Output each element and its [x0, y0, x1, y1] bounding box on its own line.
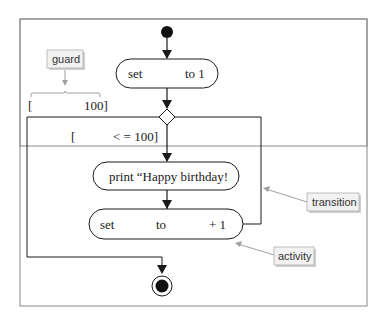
guard-loop-close: < = 100] — [113, 129, 158, 144]
guard-loop-open: [ — [71, 129, 75, 144]
activity-callout-line — [238, 244, 274, 255]
arrowhead-icon — [162, 153, 172, 162]
activity-init-to: to 1 — [185, 66, 205, 81]
arrowhead-icon — [263, 186, 270, 192]
activity-callout-label: activity — [278, 250, 312, 262]
arrowhead-icon — [162, 100, 172, 109]
guard-brace — [31, 91, 100, 97]
arrowhead-icon — [157, 265, 167, 274]
decision-node — [159, 109, 175, 125]
final-node — [156, 280, 169, 293]
guard-callout-label: guard — [52, 53, 80, 65]
activity-init-set: set — [128, 66, 143, 81]
activity-increment-plus: + 1 — [209, 217, 226, 232]
arrowhead-icon — [162, 200, 172, 209]
transition-callout-line — [266, 189, 307, 202]
activity-diagram: set to 1 [ 100] [ < = 100] print “Happy … — [0, 0, 382, 320]
initial-node — [161, 26, 173, 38]
guard-exit-open: [ — [28, 98, 32, 113]
transition-callout-label: transition — [312, 196, 357, 208]
activity-print-label: print “Happy birthday! — [109, 169, 228, 184]
activity-increment-set: set — [100, 217, 115, 232]
arrowhead-icon — [235, 241, 242, 247]
guard-exit-close: 100] — [84, 98, 108, 113]
arrowhead-icon — [162, 50, 172, 59]
arrowhead-icon — [62, 80, 68, 86]
activity-increment-to: to — [156, 217, 166, 232]
